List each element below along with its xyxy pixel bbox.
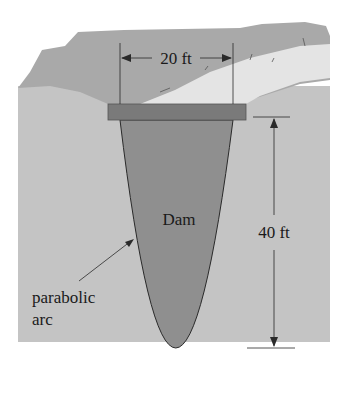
dam-diagram: 20 ft 40 ft Dam parabolic arc bbox=[0, 0, 350, 397]
curve-label-line1: parabolic bbox=[32, 288, 96, 307]
width-label: 20 ft bbox=[160, 49, 192, 68]
curve-label-line2: arc bbox=[32, 310, 53, 329]
dam-cap bbox=[108, 104, 246, 120]
dam-label: Dam bbox=[162, 210, 195, 229]
height-label: 40 ft bbox=[258, 223, 290, 242]
